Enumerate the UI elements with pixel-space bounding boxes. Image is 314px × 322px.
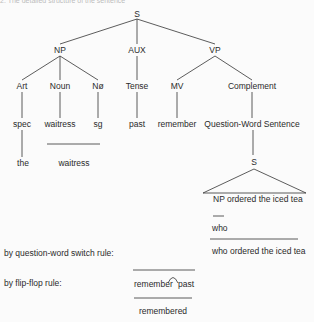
node-the: the — [17, 159, 29, 168]
node-aux: AUX — [128, 46, 145, 55]
node-sg: sg — [94, 120, 103, 129]
flip-flop-result: remembered — [139, 307, 187, 316]
node-tense: Tense — [126, 82, 149, 91]
tree-branches — [0, 0, 314, 322]
who-text: who — [212, 224, 228, 233]
node-remember: remember — [158, 120, 197, 129]
node-waitress-result: waitress — [58, 159, 89, 168]
flip-flop-past: past — [178, 280, 194, 289]
node-art: Art — [17, 82, 28, 91]
node-n-null: Nø — [92, 82, 103, 91]
node-s-root: S — [134, 10, 140, 19]
triangle-text: NP ordered the iced tea — [213, 195, 303, 204]
node-s-embedded: S — [251, 158, 257, 167]
node-spec: spec — [13, 120, 31, 129]
node-vp: VP — [209, 46, 220, 55]
flip-flop-remember: remember — [134, 280, 173, 289]
node-noun: Noun — [50, 82, 70, 91]
node-question-word-sentence: Question-Word Sentence — [204, 120, 299, 129]
flip-flop-rule-label: by flip-flop rule: — [4, 279, 62, 288]
node-complement: Complement — [228, 82, 276, 91]
node-mv: MV — [171, 82, 184, 91]
question-word-switch-rule-label: by question-word switch rule: — [4, 249, 114, 258]
node-past: past — [129, 120, 145, 129]
node-waitress: waitress — [44, 120, 75, 129]
node-np: NP — [54, 46, 66, 55]
embedded-result: who ordered the iced tea — [212, 247, 306, 256]
